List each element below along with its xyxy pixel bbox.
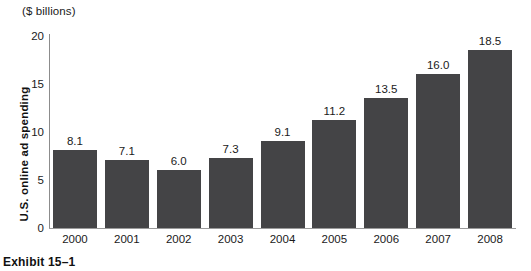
- bar: [157, 170, 201, 228]
- bar-group: 11.2: [312, 36, 356, 228]
- bar: [105, 160, 149, 228]
- bar: [312, 120, 356, 228]
- bar-value-label: 11.2: [324, 105, 346, 117]
- bar: [53, 150, 97, 228]
- bar: [364, 98, 408, 228]
- bar-value-label: 7.3: [223, 143, 239, 155]
- bar-group: 18.5: [468, 36, 512, 228]
- x-axis-tick-label: 2008: [477, 233, 503, 245]
- bar-value-label: 7.1: [119, 145, 135, 157]
- bar: [416, 74, 460, 228]
- bar-value-label: 18.5: [479, 35, 501, 47]
- bars-layer: 8.17.16.07.39.111.213.516.018.5: [49, 36, 516, 228]
- bar-value-label: 6.0: [171, 155, 187, 167]
- bar: [261, 141, 305, 228]
- bar-group: 8.1: [53, 36, 97, 228]
- y-axis-tick-label: 15: [18, 78, 44, 90]
- bar-value-label: 13.5: [375, 83, 397, 95]
- x-axis-tick-label: 2007: [425, 233, 451, 245]
- bar: [468, 50, 512, 228]
- y-axis-tick-labels: 05101520: [12, 36, 44, 228]
- bar-group: 7.3: [209, 36, 253, 228]
- x-axis-tick-label: 2004: [270, 233, 296, 245]
- y-axis-tick-label: 20: [18, 30, 44, 42]
- bar: [209, 158, 253, 228]
- y-axis-tick-label: 10: [18, 126, 44, 138]
- y-axis-tick-label: 0: [18, 222, 44, 234]
- plot-area: 8.17.16.07.39.111.213.516.018.5: [49, 36, 516, 228]
- chart-screenshot: ($ billions) U.S. online ad spending 051…: [0, 0, 531, 271]
- x-axis-tick-label: 2005: [322, 233, 348, 245]
- x-axis-tick-label: 2001: [114, 233, 140, 245]
- bar-group: 13.5: [364, 36, 408, 228]
- bar-group: 6.0: [157, 36, 201, 228]
- unit-caption: ($ billions): [22, 5, 76, 17]
- bar-value-label: 9.1: [275, 126, 291, 138]
- bar-value-label: 8.1: [67, 135, 83, 147]
- x-axis-tick-label: 2003: [218, 233, 244, 245]
- x-axis-tick-label: 2006: [373, 233, 399, 245]
- bar-group: 7.1: [105, 36, 149, 228]
- x-axis-tick-label: 2002: [166, 233, 192, 245]
- bar-group: 16.0: [416, 36, 460, 228]
- exhibit-caption: Exhibit 15–1: [3, 255, 75, 269]
- y-axis-tick-label: 5: [18, 174, 44, 186]
- x-axis-line: [49, 228, 516, 229]
- bar-value-label: 16.0: [427, 59, 449, 71]
- bar-group: 9.1: [261, 36, 305, 228]
- x-axis-tick-label: 2000: [62, 233, 88, 245]
